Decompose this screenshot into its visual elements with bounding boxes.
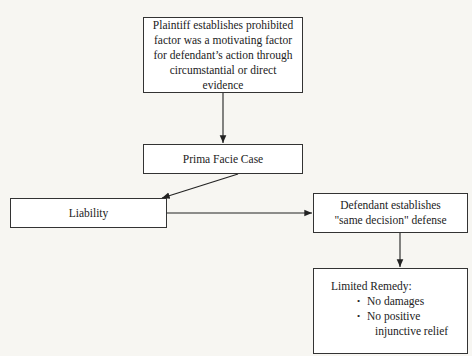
node-label: Prima Facie Case	[183, 152, 263, 167]
arrow-prima-to-liability	[162, 174, 238, 198]
node-text-line: Defendant establishes	[340, 198, 441, 213]
node-text-line: circumstantial or direct	[170, 63, 277, 78]
node-text-line: "same decision" defense	[334, 213, 446, 228]
remedy-bullet: No positive	[357, 309, 467, 324]
node-text-line: Plaintiff establishes prohibited	[153, 18, 293, 33]
node-motivating-factor: Plaintiff establishes prohibited factor …	[143, 17, 303, 93]
node-label: Liability	[69, 206, 109, 221]
node-text-line: factor was a motivating factor	[154, 33, 292, 48]
node-limited-remedy: Limited Remedy: No damages No positive i…	[313, 268, 468, 354]
node-same-decision-defense: Defendant establishes "same decision" de…	[313, 193, 468, 233]
remedy-continuation: injunctive relief	[357, 324, 467, 339]
node-prima-facie-case: Prima Facie Case	[143, 144, 303, 174]
node-title: Limited Remedy:	[331, 279, 467, 294]
node-text-line: for defendant’s action through	[154, 48, 293, 63]
remedy-bullet: No damages	[357, 294, 467, 309]
node-liability: Liability	[10, 198, 167, 228]
remedy-list: No damages No positive injunctive relief	[331, 294, 467, 339]
remedy-continuation-text: injunctive relief	[375, 325, 448, 337]
node-text-line: evidence	[203, 78, 244, 93]
